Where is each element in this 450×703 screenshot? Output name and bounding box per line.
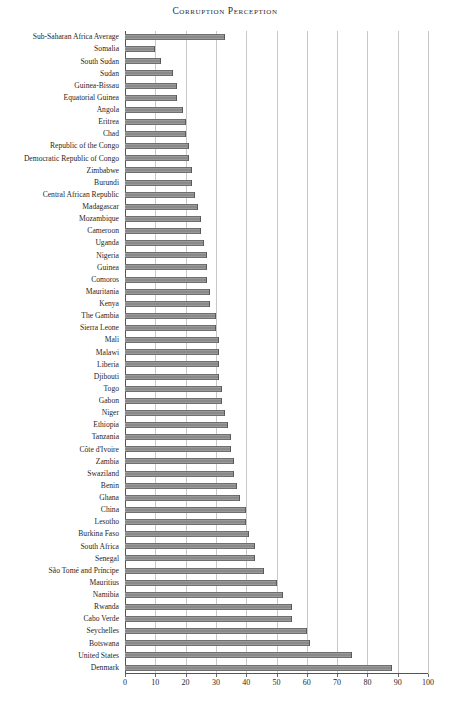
bar-row[interactable] <box>125 298 428 310</box>
bar[interactable] <box>125 543 255 549</box>
bar[interactable] <box>125 519 246 525</box>
bar-row[interactable] <box>125 407 428 419</box>
bar[interactable] <box>125 592 283 598</box>
bar-row[interactable] <box>125 358 428 370</box>
bar-row[interactable] <box>125 649 428 661</box>
bar[interactable] <box>125 434 231 440</box>
bar-row[interactable] <box>125 92 428 104</box>
bar-row[interactable] <box>125 225 428 237</box>
bar[interactable] <box>125 640 310 646</box>
bar-row[interactable] <box>125 492 428 504</box>
bar-row[interactable] <box>125 140 428 152</box>
bar[interactable] <box>125 167 192 173</box>
bar-row[interactable] <box>125 164 428 176</box>
bar-row[interactable] <box>125 104 428 116</box>
bar[interactable] <box>125 531 249 537</box>
bar-row[interactable] <box>125 468 428 480</box>
bar-row[interactable] <box>125 613 428 625</box>
bar[interactable] <box>125 46 155 52</box>
bar[interactable] <box>125 204 198 210</box>
bar-row[interactable] <box>125 43 428 55</box>
bar-row[interactable] <box>125 455 428 467</box>
bar[interactable] <box>125 495 240 501</box>
bar-row[interactable] <box>125 213 428 225</box>
bar[interactable] <box>125 665 392 671</box>
bar-row[interactable] <box>125 480 428 492</box>
bar-row[interactable] <box>125 80 428 92</box>
bar[interactable] <box>125 458 234 464</box>
bar-row[interactable] <box>125 419 428 431</box>
bar[interactable] <box>125 34 225 40</box>
bar-row[interactable] <box>125 395 428 407</box>
bar-row[interactable] <box>125 55 428 67</box>
bar[interactable] <box>125 252 207 258</box>
bar[interactable] <box>125 192 195 198</box>
bar-row[interactable] <box>125 322 428 334</box>
bar-row[interactable] <box>125 589 428 601</box>
bar[interactable] <box>125 58 161 64</box>
bar-row[interactable] <box>125 504 428 516</box>
bar-row[interactable] <box>125 552 428 564</box>
bar[interactable] <box>125 483 237 489</box>
bar[interactable] <box>125 325 216 331</box>
bar[interactable] <box>125 83 177 89</box>
bar[interactable] <box>125 398 222 404</box>
bar[interactable] <box>125 616 292 622</box>
bar-row[interactable] <box>125 152 428 164</box>
bar[interactable] <box>125 337 219 343</box>
bar[interactable] <box>125 119 186 125</box>
bar[interactable] <box>125 143 189 149</box>
bar-row[interactable] <box>125 625 428 637</box>
bar[interactable] <box>125 240 204 246</box>
bar-row[interactable] <box>125 310 428 322</box>
bar[interactable] <box>125 507 246 513</box>
bar-row[interactable] <box>125 601 428 613</box>
bar-row[interactable] <box>125 201 428 213</box>
bar[interactable] <box>125 410 225 416</box>
bar[interactable] <box>125 180 192 186</box>
bar-row[interactable] <box>125 516 428 528</box>
bar-row[interactable] <box>125 662 428 674</box>
bar[interactable] <box>125 313 216 319</box>
bar-row[interactable] <box>125 31 428 43</box>
bar[interactable] <box>125 568 264 574</box>
bar-row[interactable] <box>125 637 428 649</box>
bar-row[interactable] <box>125 334 428 346</box>
bar[interactable] <box>125 580 277 586</box>
bar-row[interactable] <box>125 286 428 298</box>
bar[interactable] <box>125 264 207 270</box>
bar[interactable] <box>125 277 207 283</box>
bar-row[interactable] <box>125 237 428 249</box>
bar-row[interactable] <box>125 116 428 128</box>
bar[interactable] <box>125 301 210 307</box>
bar[interactable] <box>125 471 234 477</box>
bar-row[interactable] <box>125 528 428 540</box>
bar-row[interactable] <box>125 371 428 383</box>
bar[interactable] <box>125 446 231 452</box>
bar[interactable] <box>125 628 307 634</box>
bar-row[interactable] <box>125 383 428 395</box>
bar-row[interactable] <box>125 577 428 589</box>
bar-row[interactable] <box>125 67 428 79</box>
bar[interactable] <box>125 374 219 380</box>
bar-row[interactable] <box>125 261 428 273</box>
bar-row[interactable] <box>125 431 428 443</box>
bar[interactable] <box>125 422 228 428</box>
bar-row[interactable] <box>125 565 428 577</box>
bar-row[interactable] <box>125 249 428 261</box>
bar-row[interactable] <box>125 177 428 189</box>
bar[interactable] <box>125 386 222 392</box>
bar[interactable] <box>125 349 219 355</box>
bar-row[interactable] <box>125 274 428 286</box>
bar-row[interactable] <box>125 346 428 358</box>
bar[interactable] <box>125 604 292 610</box>
bar[interactable] <box>125 228 201 234</box>
bar[interactable] <box>125 155 189 161</box>
bar[interactable] <box>125 131 186 137</box>
bar-row[interactable] <box>125 128 428 140</box>
bar[interactable] <box>125 216 201 222</box>
bar[interactable] <box>125 107 183 113</box>
bar-row[interactable] <box>125 540 428 552</box>
bar[interactable] <box>125 70 173 76</box>
bar[interactable] <box>125 289 210 295</box>
